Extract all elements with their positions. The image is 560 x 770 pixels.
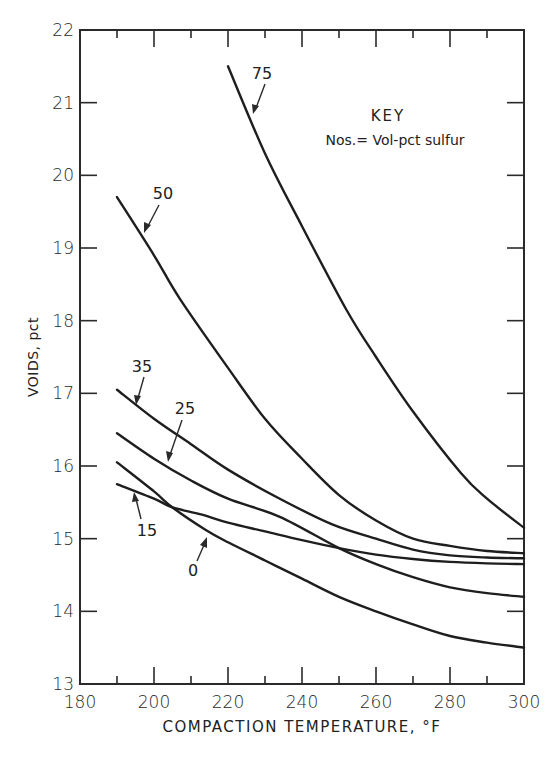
x-tick-label: 260 bbox=[360, 692, 392, 712]
curve-sulfur-0 bbox=[117, 462, 524, 647]
y-tick-label: 13 bbox=[52, 674, 74, 694]
y-axis-title: VOIDS, pct bbox=[25, 317, 41, 397]
y-tick-label: 17 bbox=[52, 383, 74, 403]
arrowhead-icon bbox=[200, 537, 207, 548]
arrow-icon bbox=[148, 205, 159, 226]
x-tick-label: 220 bbox=[212, 692, 244, 712]
x-axis-ticks bbox=[117, 30, 487, 684]
y-axis-tick-labels: 13141516171819202122 bbox=[52, 20, 74, 694]
curve-sulfur-25 bbox=[117, 433, 524, 597]
x-tick-label: 240 bbox=[286, 692, 318, 712]
y-tick-label: 21 bbox=[52, 93, 74, 113]
svg-text:75: 75 bbox=[252, 64, 272, 83]
data-curves bbox=[117, 66, 524, 647]
arrowhead-icon bbox=[252, 104, 259, 114]
y-tick-label: 16 bbox=[52, 456, 74, 476]
svg-text:15: 15 bbox=[137, 521, 157, 540]
x-tick-label: 280 bbox=[434, 692, 466, 712]
x-axis-tick-labels: 180200220240260280300 bbox=[64, 692, 540, 712]
arrow-icon bbox=[256, 84, 265, 108]
arrow-icon bbox=[138, 377, 144, 398]
x-tick-label: 300 bbox=[508, 692, 540, 712]
key-title: KEY bbox=[371, 107, 405, 125]
y-tick-label: 18 bbox=[52, 311, 74, 331]
arrow-icon bbox=[197, 545, 204, 561]
y-tick-label: 14 bbox=[52, 601, 74, 621]
key-description: Nos.= Vol-pct sulfur bbox=[325, 132, 464, 148]
x-tick-label: 180 bbox=[64, 692, 96, 712]
x-tick-label: 200 bbox=[138, 692, 170, 712]
svg-text:25: 25 bbox=[175, 399, 195, 418]
y-tick-label: 22 bbox=[52, 20, 74, 40]
svg-text:35: 35 bbox=[132, 357, 152, 376]
curve-label-50: 50 bbox=[144, 184, 173, 233]
x-axis-title: COMPACTION TEMPERATURE, °F bbox=[163, 718, 442, 736]
y-tick-label: 19 bbox=[52, 238, 74, 258]
curve-sulfur-15 bbox=[117, 484, 524, 564]
arrowhead-icon bbox=[166, 451, 173, 462]
svg-text:0: 0 bbox=[188, 561, 198, 580]
svg-text:50: 50 bbox=[153, 184, 173, 203]
curve-sulfur-50 bbox=[117, 197, 524, 553]
y-tick-label: 20 bbox=[52, 165, 74, 185]
voids-vs-temperature-chart: 180200220240260280300 131415161718192021… bbox=[0, 0, 560, 770]
curve-label-35: 35 bbox=[132, 357, 152, 405]
curve-label-75: 75 bbox=[252, 64, 272, 114]
arrow-icon bbox=[136, 499, 141, 519]
y-tick-label: 15 bbox=[52, 529, 74, 549]
curve-label-0: 0 bbox=[188, 537, 207, 580]
